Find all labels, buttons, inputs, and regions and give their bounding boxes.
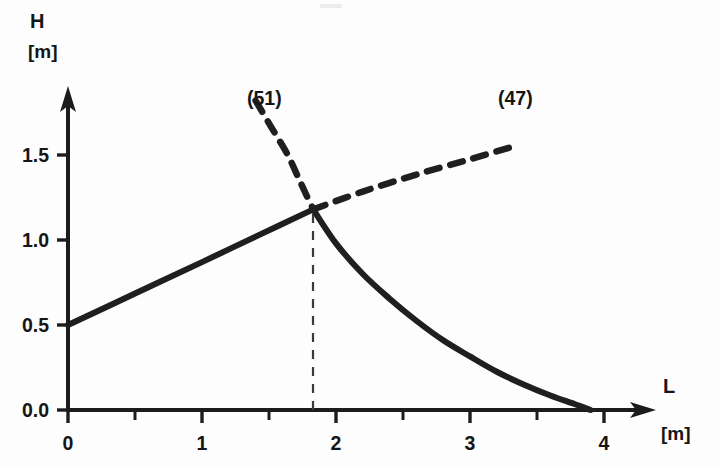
curve-label-47: (47) (498, 87, 533, 109)
curve-solid-51 (313, 209, 590, 410)
curve-layer (68, 101, 591, 410)
x-tick-labels: 0 1 2 3 4 (63, 432, 610, 454)
x-axis-unit: [m] (661, 423, 691, 444)
figure-canvas: 0.0 0.5 1.0 1.5 0 1 2 3 4 H [m] L (0, 0, 721, 467)
x-tick-label-4: 4 (599, 432, 610, 454)
x-tick-label-1: 1 (197, 432, 208, 454)
curve-dashed-51 (256, 101, 314, 210)
scan-artifact (320, 4, 342, 8)
x-tick-label-2: 2 (331, 432, 342, 454)
y-axis (60, 86, 76, 412)
y-tick-label-3: 1.5 (22, 144, 49, 166)
y-tick-labels: 0.0 0.5 1.0 1.5 (22, 144, 49, 421)
curve-label-51: (51) (247, 87, 282, 109)
y-tick-label-1: 0.5 (22, 314, 49, 336)
x-axis-title: L (663, 375, 675, 397)
chart-plot: 0.0 0.5 1.0 1.5 0 1 2 3 4 H [m] L (0, 0, 721, 467)
y-axis-unit: [m] (28, 41, 58, 62)
y-tick-label-0: 0.0 (22, 399, 49, 421)
x-tick-label-3: 3 (465, 432, 476, 454)
curve-dashed-47 (313, 147, 510, 209)
x-tick-label-0: 0 (63, 432, 74, 454)
y-tick-label-2: 1.0 (22, 229, 49, 251)
curve-solid-47 (68, 209, 313, 325)
y-axis-title: H (30, 10, 44, 32)
